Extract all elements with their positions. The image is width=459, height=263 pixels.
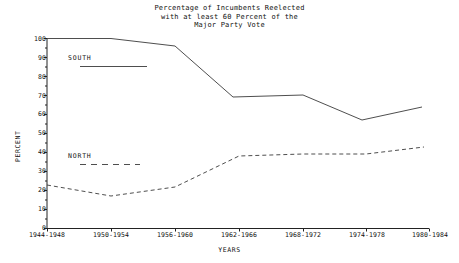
y-axis	[44, 39, 47, 229]
x-axis	[47, 229, 430, 232]
series-line-north	[47, 147, 424, 196]
series-line-south	[47, 39, 422, 121]
chart-plot-area	[0, 0, 459, 263]
chart-figure: Percentage of Incumbents Reelected with …	[0, 0, 459, 263]
